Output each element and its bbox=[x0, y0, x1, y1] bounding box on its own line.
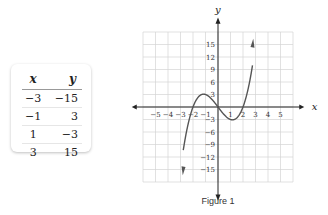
y-tick-label: 9 bbox=[211, 66, 215, 74]
x-axis-arrow-icon bbox=[299, 105, 304, 110]
y-tick-label: −9 bbox=[205, 141, 215, 149]
x-tick-label: 5 bbox=[278, 111, 282, 119]
cubic-graph: xy−5−4−3−2−112345−15−12−9−6−33691215 bbox=[0, 0, 328, 215]
y-tick-label: −15 bbox=[200, 166, 215, 174]
x-axis-arrow-left-icon bbox=[132, 105, 137, 110]
curve-arrow-up-icon bbox=[251, 39, 255, 48]
y-axis-label: y bbox=[214, 4, 221, 15]
y-tick-label: 6 bbox=[211, 79, 216, 87]
x-tick-label: −5 bbox=[150, 111, 160, 119]
y-tick-label: 12 bbox=[206, 54, 215, 62]
figure-caption: Figure 1 bbox=[196, 196, 240, 206]
y-tick-label: −12 bbox=[200, 154, 215, 162]
curve-arrow-down-icon bbox=[182, 166, 186, 175]
x-tick-label: −3 bbox=[175, 111, 185, 119]
x-axis-label: x bbox=[312, 101, 318, 112]
x-tick-label: 1 bbox=[228, 111, 232, 119]
y-tick-label: −3 bbox=[205, 116, 215, 124]
x-tick-label: 3 bbox=[253, 111, 257, 119]
y-tick-label: −6 bbox=[205, 129, 216, 137]
x-tick-label: −4 bbox=[163, 111, 174, 119]
y-tick-label: 15 bbox=[206, 41, 215, 49]
y-axis-arrow-icon bbox=[216, 17, 221, 23]
x-tick-label: 4 bbox=[266, 111, 271, 119]
